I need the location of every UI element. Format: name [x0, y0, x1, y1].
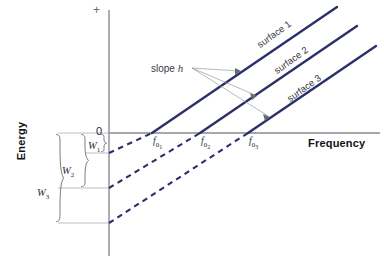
threshold-frequency-f02-label: f02: [201, 136, 210, 150]
surface-lines-group: [152, 7, 376, 133]
origin-label: 0: [96, 125, 102, 137]
slope-variable: h: [178, 62, 184, 74]
work-function-w1-label: W1: [88, 140, 100, 154]
surface-3-line: [248, 46, 376, 133]
work-function-w3-label: W3: [37, 187, 49, 201]
w1-subscript: 1: [97, 146, 101, 154]
w3-subscript: 3: [46, 193, 50, 201]
w2-subscript: 2: [71, 171, 75, 179]
surface-2-line: [200, 26, 357, 133]
x-axis-title: Frequency: [308, 137, 365, 149]
w3-symbol: W: [37, 187, 46, 198]
slope-word: slope: [151, 63, 175, 74]
w2-symbol: W: [62, 165, 71, 176]
threshold-frequency-f01-label: f01: [153, 136, 162, 150]
f03-index: 3: [255, 144, 258, 150]
brace-w1: [102, 135, 107, 152]
slope-leader-to-surface-2: [192, 68, 255, 95]
photoelectric-effect-diagram: Energy Frequency + 0 surface 1 surface 2…: [0, 0, 384, 276]
slope-leader-to-surface-3: [192, 68, 268, 116]
w1-symbol: W: [88, 140, 97, 151]
f02-index: 2: [207, 144, 210, 150]
surface-1-dashed-line: [109, 133, 152, 153]
positive-axis-marker: +: [93, 3, 100, 17]
slope-leader-arrowheads-group: [235, 68, 270, 121]
threshold-frequency-f03-label: f03: [249, 136, 258, 150]
extrapolation-lines-group: [109, 133, 248, 223]
slope-leader-lines-group: [192, 68, 268, 116]
slope-annotation: slope h: [151, 62, 183, 74]
f01-index: 1: [159, 144, 162, 150]
slope-leader-to-surface-1: [192, 68, 239, 71]
y-axis-title: Energy: [15, 111, 27, 171]
work-function-w2-label: W2: [62, 165, 74, 179]
